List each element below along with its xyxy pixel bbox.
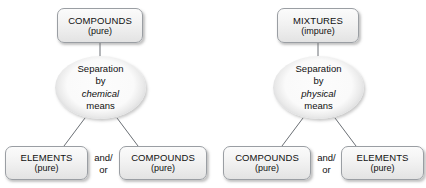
edge-right-ellipse-to-output-2 bbox=[335, 118, 356, 146]
node-elements-pure-output[interactable]: ELEMENTS (pure) bbox=[5, 146, 88, 180]
node-compounds-pure-output[interactable]: COMPOUNDS (pure) bbox=[119, 146, 207, 180]
and-or-line-2: or bbox=[312, 164, 341, 176]
node-label-title: ELEMENTS bbox=[20, 152, 72, 163]
ellipse-line-3-italic: chemical bbox=[78, 88, 124, 100]
node-label-title: ELEMENTS bbox=[356, 152, 408, 163]
node-label-sub: (pure) bbox=[151, 163, 175, 174]
node-separation-physical[interactable]: Separation by physical means bbox=[273, 56, 364, 119]
and-or-line-1: and/ bbox=[89, 152, 118, 164]
node-label-sub: (pure) bbox=[34, 163, 58, 174]
connector-label-and-or-right: and/ or bbox=[312, 152, 341, 177]
node-label-sub: (pure) bbox=[88, 26, 112, 37]
node-label-title: COMPOUNDS bbox=[131, 152, 195, 163]
and-or-line-1: and/ bbox=[312, 152, 341, 164]
ellipse-line-1: Separation bbox=[296, 63, 342, 75]
ellipse-line-2: by bbox=[296, 75, 342, 87]
edge-left-ellipse-to-output-1 bbox=[64, 118, 85, 146]
edge-right-ellipse-to-output-1 bbox=[282, 118, 303, 146]
node-label-title: COMPOUNDS bbox=[68, 15, 132, 26]
diagram-canvas: COMPOUNDS (pure) Separation by chemical … bbox=[0, 0, 426, 188]
ellipse-line-2: by bbox=[78, 75, 124, 87]
ellipse-line-1: Separation bbox=[78, 63, 124, 75]
node-label-sub: (pure) bbox=[255, 163, 279, 174]
and-or-line-2: or bbox=[89, 164, 118, 176]
node-label-title: MIXTURES bbox=[293, 15, 343, 26]
connector-label-and-or-left: and/ or bbox=[89, 152, 118, 177]
node-compounds-pure-input[interactable]: COMPOUNDS (pure) bbox=[57, 8, 143, 43]
edge-left-ellipse-to-output-2 bbox=[117, 118, 138, 146]
ellipse-text-block: Separation by chemical means bbox=[78, 63, 124, 112]
node-elements-pure-output-right[interactable]: ELEMENTS (pure) bbox=[341, 146, 424, 180]
node-compounds-pure-output-right[interactable]: COMPOUNDS (pure) bbox=[223, 146, 311, 180]
node-label-title: COMPOUNDS bbox=[235, 152, 299, 163]
node-label-sub: (impure) bbox=[301, 26, 335, 37]
node-label-sub: (pure) bbox=[370, 163, 394, 174]
ellipse-line-4: means bbox=[296, 100, 342, 112]
node-separation-chemical[interactable]: Separation by chemical means bbox=[55, 56, 146, 119]
node-mixtures-impure-input[interactable]: MIXTURES (impure) bbox=[277, 8, 359, 43]
ellipse-text-block: Separation by physical means bbox=[296, 63, 342, 112]
ellipse-line-4: means bbox=[78, 100, 124, 112]
ellipse-line-3-italic: physical bbox=[296, 88, 342, 100]
